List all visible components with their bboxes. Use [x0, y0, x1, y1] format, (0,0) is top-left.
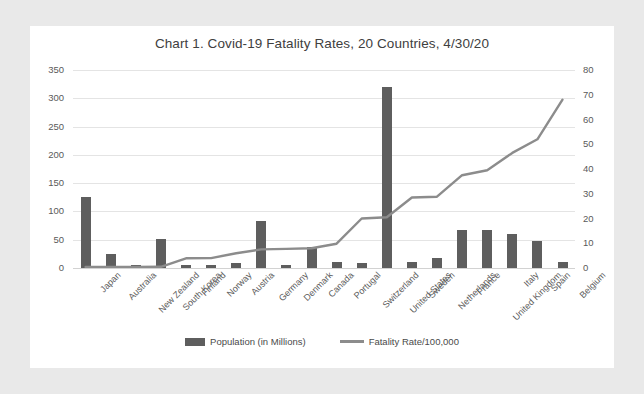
right-axis-tick: 50 — [583, 139, 594, 149]
left-axis-tick: 300 — [48, 93, 64, 103]
left-axis-tick: 0 — [59, 263, 64, 273]
right-axis-tick: 30 — [583, 189, 594, 199]
chart-card: Chart 1. Covid-19 Fatality Rates, 20 Cou… — [30, 26, 614, 368]
left-axis-tick: 200 — [48, 150, 64, 160]
left-axis-tick: 250 — [48, 122, 64, 132]
right-axis-tick: 60 — [583, 115, 594, 125]
line-series-fatality-rate — [73, 70, 575, 268]
right-axis-tick: 10 — [583, 238, 594, 248]
legend-item-fatality-rate: Fatality Rate/100,000 — [340, 336, 459, 347]
right-axis-tick-labels: 01020304050607080 — [579, 70, 617, 268]
line-swatch-icon — [340, 340, 364, 343]
left-axis-tick: 100 — [48, 206, 64, 216]
category-label-belgium: Belgium — [577, 270, 607, 300]
page-title: Chart 1. Covid-19 Fatality Rates, 20 Cou… — [30, 36, 614, 51]
category-label-norway: Norway — [225, 270, 254, 299]
right-axis-tick: 20 — [583, 214, 594, 224]
left-axis-tick: 150 — [48, 178, 64, 188]
right-axis-tick: 80 — [583, 65, 594, 75]
left-axis-tick-labels: 050100150200250300350 — [30, 70, 68, 268]
plot-area — [73, 70, 575, 268]
chart-legend: Population (in Millions) Fatality Rate/1… — [30, 336, 614, 347]
right-axis-tick: 0 — [583, 263, 588, 273]
category-axis-labels: JapanAustraliaNew ZealandSouth KoreaFinl… — [73, 270, 575, 332]
category-label-austria: Austria — [249, 270, 276, 297]
category-label-australia: Australia — [126, 270, 158, 302]
left-axis-tick: 350 — [48, 65, 64, 75]
legend-label-population: Population (in Millions) — [210, 336, 306, 347]
category-label-portugal: Portugal — [351, 270, 382, 301]
category-label-japan: Japan — [98, 270, 122, 294]
left-axis-tick: 50 — [53, 235, 64, 245]
right-axis-tick: 40 — [583, 164, 594, 174]
right-axis-tick: 70 — [583, 90, 594, 100]
legend-item-population: Population (in Millions) — [185, 336, 306, 347]
line-path — [86, 100, 563, 267]
category-label-italy: Italy — [522, 270, 541, 289]
legend-label-fatality-rate: Fatality Rate/100,000 — [369, 336, 459, 347]
fatality-rate-polyline — [73, 70, 575, 268]
gridline — [73, 268, 575, 269]
bar-swatch-icon — [185, 338, 205, 346]
